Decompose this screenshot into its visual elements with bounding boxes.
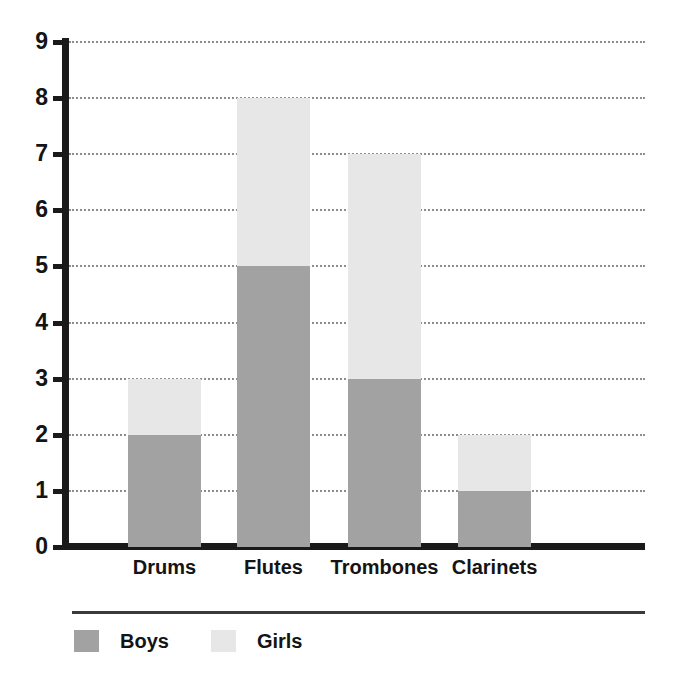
bar-group-trombones[interactable] (348, 42, 421, 547)
chart-legend: BoysGirls (74, 630, 344, 652)
bar-segment-clarinets-girls[interactable] (458, 435, 531, 491)
x-tick-label-clarinets: Clarinets (405, 556, 585, 579)
bar-stack (458, 435, 531, 547)
y-tick-mark-1 (53, 489, 64, 494)
bar-segment-clarinets-boys[interactable] (458, 491, 531, 547)
y-tick-label-0: 0 (20, 535, 48, 558)
bar-segment-trombones-girls[interactable] (348, 154, 421, 378)
y-tick-mark-7 (53, 152, 64, 157)
legend-separator (72, 611, 645, 614)
bar-segment-flutes-girls[interactable] (237, 98, 310, 266)
bar-group-drums[interactable] (128, 42, 201, 547)
y-tick-label-4: 4 (20, 311, 48, 334)
bar-stack (128, 379, 201, 547)
bar-segment-drums-girls[interactable] (128, 379, 201, 435)
bar-segment-trombones-boys[interactable] (348, 379, 421, 547)
legend-entry-boys[interactable]: Boys (74, 630, 169, 652)
y-tick-label-7: 7 (20, 142, 48, 165)
y-tick-mark-5 (53, 264, 64, 269)
bar-segment-drums-boys[interactable] (128, 435, 201, 547)
y-tick-label-1: 1 (20, 479, 48, 502)
legend-entry-girls[interactable]: Girls (211, 630, 303, 652)
y-tick-mark-9 (53, 40, 64, 45)
y-tick-mark-3 (53, 377, 64, 382)
y-tick-mark-6 (53, 208, 64, 213)
y-tick-mark-2 (53, 433, 64, 438)
plot-area (68, 42, 645, 547)
bar-stack (348, 154, 421, 547)
y-tick-label-5: 5 (20, 254, 48, 277)
bar-segment-flutes-boys[interactable] (237, 266, 310, 547)
y-tick-mark-0 (53, 545, 64, 550)
y-tick-label-8: 8 (20, 86, 48, 109)
y-tick-mark-4 (53, 321, 64, 326)
y-tick-label-6: 6 (20, 198, 48, 221)
bar-stack (237, 98, 310, 547)
legend-label-girls: Girls (257, 631, 303, 651)
y-tick-mark-8 (53, 96, 64, 101)
bar-group-clarinets[interactable] (458, 42, 531, 547)
legend-label-boys: Boys (120, 631, 169, 651)
bar-group-flutes[interactable] (237, 42, 310, 547)
y-tick-label-2: 2 (20, 423, 48, 446)
legend-swatch-girls (211, 630, 236, 652)
legend-swatch-boys (74, 630, 99, 652)
y-tick-label-3: 3 (20, 367, 48, 390)
y-tick-label-9: 9 (20, 30, 48, 53)
stacked-bar-chart-figure: 0123456789 DrumsFlutesTrombonesClarinets… (0, 0, 679, 678)
